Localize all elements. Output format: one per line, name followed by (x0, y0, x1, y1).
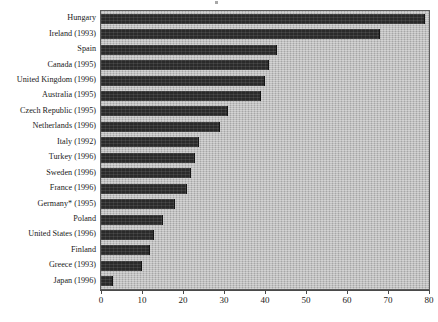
x-tick-mark (142, 290, 143, 294)
bar (101, 91, 261, 101)
bar (101, 261, 142, 271)
category-label: Italy (1992) (0, 137, 96, 146)
category-label: Spain (0, 44, 96, 53)
bar (101, 122, 220, 132)
category-label: France (1996) (0, 183, 96, 192)
plot-area (100, 10, 430, 290)
x-tick-label: 70 (384, 295, 393, 306)
x-tick-mark (347, 290, 348, 294)
x-axis-ticks: 01020304050607080 (100, 290, 430, 312)
x-tick-mark (101, 290, 102, 294)
category-label: Netherlands (1996) (0, 121, 96, 130)
x-tick-label: 50 (302, 295, 311, 306)
bar (101, 199, 175, 209)
category-label: Poland (0, 214, 96, 223)
category-label: Turkey (1996) (0, 152, 96, 161)
x-tick-mark (183, 290, 184, 294)
x-tick-label: 30 (220, 295, 229, 306)
bar (101, 184, 187, 194)
bar (101, 245, 150, 255)
category-label: Japan (1996) (0, 276, 96, 285)
x-tick-label: 40 (261, 295, 270, 306)
bar (101, 276, 113, 286)
x-tick-label: 60 (343, 295, 352, 306)
category-label: Finland (0, 245, 96, 254)
bar (101, 215, 163, 225)
category-label: United States (1996) (0, 229, 96, 238)
x-tick-mark (388, 290, 389, 294)
bar (101, 29, 380, 39)
category-label: Czech Republic (1995) (0, 106, 96, 115)
category-label: Australia (1995) (0, 90, 96, 99)
category-label: Sweden (1996) (0, 168, 96, 177)
x-tick-label: 20 (179, 295, 188, 306)
bar (101, 45, 277, 55)
x-tick-label: 10 (138, 295, 147, 306)
bar-chart: HungaryIreland (1993)SpainCanada (1995)U… (0, 0, 438, 322)
x-tick-mark (429, 290, 430, 294)
bar (101, 168, 191, 178)
image-artifact-speck (215, 1, 218, 4)
category-label: Hungary (0, 13, 96, 22)
x-tick-label: 0 (99, 295, 104, 306)
bar (101, 137, 199, 147)
x-tick-mark (265, 290, 266, 294)
category-label: Ireland (1993) (0, 29, 96, 38)
category-label: Greece (1993) (0, 260, 96, 269)
bar (101, 76, 265, 86)
category-label: Germany* (1995) (0, 199, 96, 208)
category-label: United Kingdom (1996) (0, 75, 96, 84)
x-tick-mark (306, 290, 307, 294)
x-tick-label: 80 (425, 295, 434, 306)
bar (101, 60, 269, 70)
bar (101, 14, 425, 24)
bar (101, 106, 228, 116)
bars-layer (101, 11, 429, 289)
bar (101, 230, 154, 240)
x-tick-mark (224, 290, 225, 294)
bar (101, 153, 195, 163)
category-axis-labels: HungaryIreland (1993)SpainCanada (1995)U… (0, 10, 96, 290)
category-label: Canada (1995) (0, 60, 96, 69)
